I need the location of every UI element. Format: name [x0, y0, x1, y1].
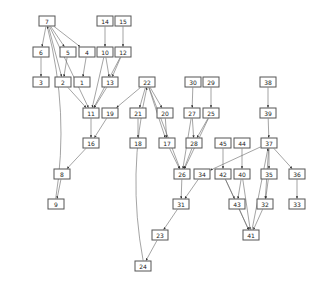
node-label: 15: [119, 18, 127, 25]
node-label: 18: [134, 140, 142, 147]
node-label: 36: [293, 171, 301, 178]
node-label: 42: [219, 171, 227, 178]
edge-8-9: [57, 180, 61, 199]
node-label: 44: [238, 140, 246, 147]
edge-39-37: [268, 119, 269, 138]
node-13[interactable]: 13: [102, 77, 118, 87]
node-label: 23: [156, 232, 164, 239]
node-label: 4: [85, 49, 89, 56]
node-label: 40: [238, 171, 246, 178]
node-label: 39: [264, 110, 272, 117]
node-38[interactable]: 38: [260, 77, 276, 87]
node-label: 24: [139, 263, 147, 270]
node-45[interactable]: 45: [215, 138, 231, 148]
node-33[interactable]: 33: [289, 199, 305, 209]
node-label: 41: [247, 232, 255, 239]
graph-diagram: 7141565410123211322302938111921202725391…: [0, 0, 319, 285]
edge-7-6: [42, 27, 46, 47]
edge-37-36: [274, 149, 292, 169]
node-20[interactable]: 20: [157, 108, 173, 118]
edge-22-26: [149, 88, 180, 169]
node-label: 22: [143, 79, 151, 86]
node-37[interactable]: 37: [261, 138, 277, 148]
node-1[interactable]: 1: [74, 77, 90, 87]
edge-32-41: [253, 210, 262, 230]
edge-41-37: [252, 149, 268, 230]
node-label: 16: [87, 140, 95, 147]
node-label: 29: [207, 79, 215, 86]
node-17[interactable]: 17: [159, 138, 175, 148]
edge-43-41: [239, 210, 248, 230]
node-12[interactable]: 12: [115, 47, 131, 57]
node-label: 37: [265, 140, 273, 147]
node-3[interactable]: 3: [33, 77, 49, 87]
node-label: 12: [119, 49, 127, 56]
node-15[interactable]: 15: [115, 16, 131, 26]
edge-17-26: [170, 149, 180, 169]
node-label: 28: [190, 140, 198, 147]
node-18[interactable]: 18: [130, 138, 146, 148]
node-label: 45: [219, 140, 227, 147]
node-44[interactable]: 44: [234, 138, 250, 148]
edge-4-1: [83, 58, 86, 77]
edge-20-17: [165, 119, 166, 138]
node-8[interactable]: 8: [54, 169, 70, 179]
node-30[interactable]: 30: [185, 77, 201, 87]
node-2[interactable]: 2: [55, 77, 71, 87]
node-36[interactable]: 36: [289, 169, 305, 179]
node-31[interactable]: 31: [173, 199, 189, 209]
node-label: 10: [101, 49, 109, 56]
node-label: 3: [39, 79, 43, 86]
node-label: 27: [188, 110, 196, 117]
node-label: 13: [106, 79, 114, 86]
node-4[interactable]: 4: [79, 47, 95, 57]
node-16[interactable]: 16: [83, 138, 99, 148]
node-7[interactable]: 7: [39, 16, 55, 26]
node-28[interactable]: 28: [186, 138, 202, 148]
node-9[interactable]: 9: [48, 199, 64, 209]
node-label: 38: [264, 79, 272, 86]
edge-40-43: [238, 180, 241, 199]
node-21[interactable]: 21: [130, 108, 146, 118]
node-label: 31: [177, 201, 185, 208]
edge-37-34: [211, 147, 261, 170]
node-23[interactable]: 23: [152, 230, 168, 240]
node-43[interactable]: 43: [229, 199, 245, 209]
edge-26-31: [181, 180, 182, 199]
node-39[interactable]: 39: [260, 108, 276, 118]
node-29[interactable]: 29: [203, 77, 219, 87]
node-34[interactable]: 34: [194, 169, 210, 179]
node-14[interactable]: 14: [97, 16, 113, 26]
edge-27-28: [192, 119, 193, 138]
node-25[interactable]: 25: [203, 108, 219, 118]
node-label: 2: [61, 79, 65, 86]
node-6[interactable]: 6: [33, 47, 49, 57]
node-label: 21: [134, 110, 142, 117]
node-24[interactable]: 24: [135, 261, 151, 271]
edge-16-8: [67, 149, 86, 169]
node-42[interactable]: 42: [215, 169, 231, 179]
node-label: 9: [54, 201, 58, 208]
node-40[interactable]: 40: [234, 169, 250, 179]
node-label: 17: [163, 140, 171, 147]
node-10[interactable]: 10: [97, 47, 113, 57]
node-label: 5: [66, 49, 70, 56]
node-26[interactable]: 26: [174, 169, 190, 179]
node-label: 19: [106, 110, 114, 117]
node-5[interactable]: 5: [60, 47, 76, 57]
nodes: 7141565410123211322302938111921202725391…: [33, 16, 305, 271]
node-label: 11: [87, 110, 95, 117]
edge-31-23: [164, 210, 178, 230]
node-11[interactable]: 11: [83, 108, 99, 118]
node-label: 43: [233, 201, 241, 208]
node-19[interactable]: 19: [102, 108, 118, 118]
node-41[interactable]: 41: [243, 230, 259, 240]
node-label: 1: [80, 79, 84, 86]
node-32[interactable]: 32: [257, 199, 273, 209]
edge-10-13: [106, 58, 109, 77]
node-35[interactable]: 35: [261, 169, 277, 179]
edge-22-19: [117, 88, 141, 108]
node-27[interactable]: 27: [184, 108, 200, 118]
node-22[interactable]: 22: [139, 77, 155, 87]
edge-28-26: [184, 149, 192, 169]
